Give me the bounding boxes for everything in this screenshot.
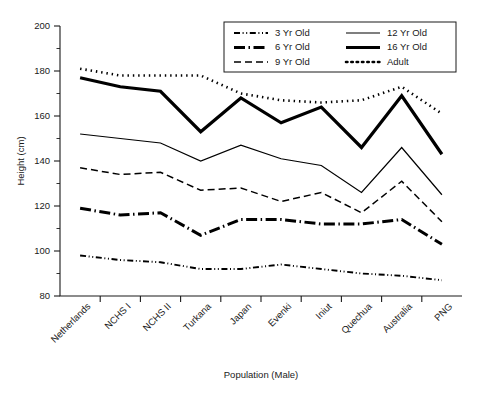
- plot-area: 80100120140160180200Height (cm)Netherlan…: [15, 20, 462, 380]
- x-tick-label: Quechua: [339, 300, 375, 336]
- legend-label-16-yr-old: 16 Yr Old: [387, 41, 427, 52]
- x-tick-label: Australia: [380, 300, 414, 334]
- legend-label-12-yr-old: 12 Yr Old: [387, 27, 427, 38]
- y-tick-label: 180: [34, 65, 50, 76]
- y-tick-label: 100: [34, 245, 50, 256]
- x-tick-label: Turkana: [181, 300, 214, 333]
- x-tick-label: PNG: [432, 301, 454, 323]
- height-by-population-line-chart: 80100120140160180200Height (cm)Netherlan…: [0, 0, 490, 393]
- y-tick-label: 200: [34, 20, 50, 31]
- legend-label-3-yr-old: 3 Yr Old: [275, 27, 310, 38]
- series-line-12-yr-old: [80, 134, 442, 195]
- series-line-6-yr-old: [80, 208, 442, 244]
- x-tick-label: NCHS I: [102, 301, 133, 332]
- legend-label-6-yr-old: 6 Yr Old: [275, 41, 310, 52]
- x-axis-title: Population (Male): [224, 369, 298, 380]
- legend-label-9-yr-old: 9 Yr Old: [275, 56, 310, 67]
- series-line-adult: [80, 69, 442, 114]
- x-tick-label: Evenki: [266, 301, 294, 329]
- chart-container: 80100120140160180200Height (cm)Netherlan…: [0, 0, 490, 393]
- x-tick-label: Netherlands: [49, 300, 93, 344]
- x-tick-label: NCHS II: [140, 301, 172, 333]
- chart-legend: 3 Yr Old12 Yr Old6 Yr Old16 Yr Old9 Yr O…: [224, 22, 456, 72]
- x-tick-label: Iniut: [313, 300, 334, 321]
- y-tick-label: 160: [34, 110, 50, 121]
- series-line-3-yr-old: [80, 256, 442, 281]
- legend-label-adult: Adult: [387, 56, 409, 67]
- y-tick-label: 140: [34, 155, 50, 166]
- y-tick-label: 120: [34, 200, 50, 211]
- x-tick-label: Japan: [227, 301, 253, 327]
- y-tick-label: 80: [39, 290, 50, 301]
- series-line-16-yr-old: [80, 78, 442, 155]
- y-axis-title: Height (cm): [15, 136, 26, 185]
